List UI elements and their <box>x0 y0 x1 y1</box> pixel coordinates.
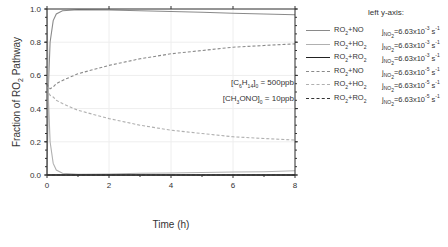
legend-swatch <box>306 44 330 45</box>
grid-lines <box>47 9 295 175</box>
legend-rate: jNO2=6.63x10-3 s-1 <box>382 39 440 53</box>
y-axis-label: Fraction of RO2 Pathway <box>11 37 24 147</box>
svg-text:6: 6 <box>231 181 236 190</box>
x-axis-label: Time (h) <box>153 219 190 230</box>
svg-text:0.4: 0.4 <box>30 105 42 114</box>
legend-rate: jNO2=6.63x10-3 s-1 <box>382 25 440 39</box>
legend-label: RO2+HO2 <box>334 39 366 50</box>
legend-swatch <box>306 30 330 31</box>
legend-swatch <box>306 71 330 72</box>
legend-label: RO2+HO2 <box>334 79 366 90</box>
legend-item: RO2+NOjNO2=6.63x10-5 s-1 <box>296 66 448 77</box>
svg-text:0.0: 0.0 <box>30 171 42 180</box>
svg-text:0.2: 0.2 <box>30 138 42 147</box>
legend-swatch <box>306 84 330 85</box>
legend-title: left y-axis: <box>368 8 404 17</box>
annotation-c6h14: [C6H14]0 = 500ppb <box>231 78 294 89</box>
legend-item: RO2+HO2jNO2=6.63x10-3 s-1 <box>296 39 448 50</box>
annotation-ch3ono: [CH3ONO]0 = 10ppb <box>223 94 294 105</box>
legend-label: RO2+RO2 <box>334 93 366 104</box>
legend-rate: jNO2=6.63x10-5 s-1 <box>382 66 440 80</box>
legend-item: RO2+RO2jNO2=6.63x10-3 s-1 <box>296 52 448 63</box>
svg-text:4: 4 <box>169 181 174 190</box>
legend: left y-axis: RO2+NOjNO2=6.63x10-3 s-1RO2… <box>296 0 448 130</box>
svg-text:0.8: 0.8 <box>30 38 42 47</box>
legend-label: RO2+NO <box>334 25 364 36</box>
legend-rate: jNO2=6.63x10-5 s-1 <box>382 79 440 93</box>
legend-rate: jNO2=6.63x10-5 s-1 <box>382 93 440 107</box>
svg-text:2: 2 <box>107 181 112 190</box>
legend-item: RO2+RO2jNO2=6.63x10-5 s-1 <box>296 93 448 104</box>
legend-label: RO2+NO <box>334 66 364 77</box>
svg-text:0.6: 0.6 <box>30 71 42 80</box>
legend-swatch <box>306 57 330 58</box>
legend-swatch <box>306 98 330 99</box>
svg-text:0: 0 <box>45 181 50 190</box>
legend-label: RO2+RO2 <box>334 52 366 63</box>
svg-text:1.0: 1.0 <box>30 5 42 14</box>
legend-item: RO2+NOjNO2=6.63x10-3 s-1 <box>296 25 448 36</box>
legend-item: RO2+HO2jNO2=6.63x10-5 s-1 <box>296 79 448 90</box>
legend-rate: jNO2=6.63x10-3 s-1 <box>382 52 440 66</box>
svg-text:8: 8 <box>293 181 298 190</box>
